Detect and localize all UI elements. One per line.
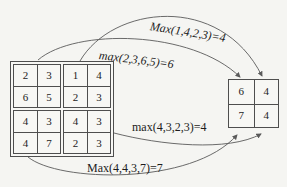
matrix-cell: 4 bbox=[254, 80, 279, 104]
matrix-cell: 3 bbox=[87, 111, 110, 132]
input-matrix: 2 3 6 5 1 4 2 3 4 3 4 7 4 3 2 3 bbox=[10, 61, 114, 157]
input-quadrant-bottom-left: 4 3 4 7 bbox=[13, 110, 61, 154]
matrix-cell: 6 bbox=[14, 86, 37, 107]
matrix-cell: 4 bbox=[64, 111, 87, 132]
matrix-cell: 2 bbox=[64, 86, 87, 107]
annotation-max-4323: max(4,3,2,3)=4 bbox=[132, 120, 206, 135]
matrix-cell: 4 bbox=[14, 132, 37, 153]
matrix-cell: 4 bbox=[254, 104, 279, 128]
matrix-cell: 1 bbox=[64, 65, 87, 86]
input-quadrant-top-left: 2 3 6 5 bbox=[13, 64, 61, 108]
matrix-cell: 3 bbox=[87, 86, 110, 107]
matrix-cell: 7 bbox=[37, 132, 60, 153]
max-pooling-diagram: 2 3 6 5 1 4 2 3 4 3 4 7 4 3 2 3 6 4 7 4 bbox=[0, 0, 287, 187]
matrix-cell: 7 bbox=[229, 104, 254, 128]
input-quadrant-top-right: 1 4 2 3 bbox=[63, 64, 111, 108]
matrix-cell: 2 bbox=[64, 132, 87, 153]
output-matrix: 6 4 7 4 bbox=[228, 79, 279, 128]
matrix-cell: 4 bbox=[14, 111, 37, 132]
matrix-cell: 3 bbox=[37, 65, 60, 86]
input-quadrant-bottom-right: 4 3 2 3 bbox=[63, 110, 111, 154]
matrix-cell: 3 bbox=[87, 132, 110, 153]
annotation-max-4437: Max(4,4,3,7)=7 bbox=[87, 161, 163, 176]
matrix-cell: 4 bbox=[87, 65, 110, 86]
matrix-cell: 6 bbox=[229, 80, 254, 104]
matrix-cell: 5 bbox=[37, 86, 60, 107]
matrix-cell: 3 bbox=[37, 111, 60, 132]
matrix-cell: 2 bbox=[14, 65, 37, 86]
